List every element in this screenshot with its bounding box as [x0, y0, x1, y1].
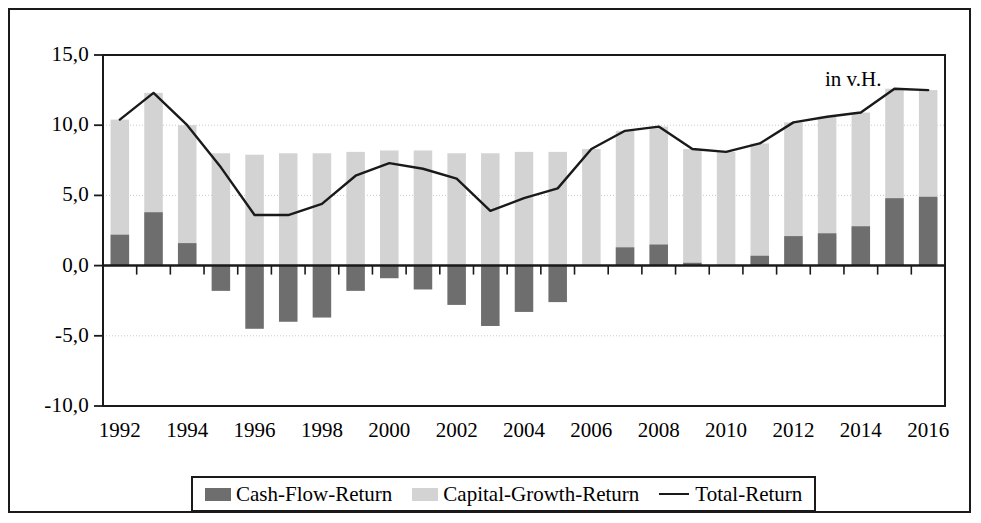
x-axis-tick-label: 1992: [85, 420, 155, 441]
y-axis-tick-label: 0,0: [62, 255, 89, 276]
cash-flow-bar: [548, 266, 567, 303]
capital-growth-bar: [515, 152, 534, 266]
capital-growth-bar: [750, 143, 769, 265]
x-axis-tick-label: 2010: [691, 420, 761, 441]
cash-flow-bar: [616, 247, 635, 265]
cash-flow-bar: [515, 266, 534, 312]
capital-growth-bar: [548, 152, 567, 266]
y-axis-tick-label: 5,0: [62, 184, 89, 205]
capital-growth-bar: [683, 149, 702, 266]
cash-flow-bar: [481, 266, 500, 326]
capital-growth-bar: [313, 153, 332, 265]
capital-growth-bar: [447, 153, 466, 265]
cash-flow-bar: [649, 245, 668, 266]
cash-flow-bar: [279, 266, 298, 322]
legend-swatch-icon: [205, 488, 231, 501]
chart-plot-area: -10,0-5,00,05,010,015,0 1992199419961998…: [10, 10, 973, 515]
x-axis-tick-label: 2016: [893, 420, 963, 441]
legend-item: Cash-Flow-Return: [205, 484, 392, 505]
legend-item: Capital-Growth-Return: [412, 484, 639, 505]
x-axis-tick-label: 2002: [422, 420, 492, 441]
capital-growth-bar: [616, 131, 635, 266]
x-axis-tick-label: 1994: [152, 420, 222, 441]
y-axis-tick-label: -5,0: [55, 325, 89, 346]
cash-flow-bar: [212, 266, 231, 291]
x-axis-tick-label: 2006: [556, 420, 626, 441]
cash-flow-bar: [818, 233, 837, 265]
unit-annotation: in v.H.: [825, 69, 881, 90]
legend-item: Total-Return: [659, 484, 802, 505]
y-axis-tick-label: -10,0: [44, 395, 89, 416]
x-axis-tick-label: 2008: [624, 420, 694, 441]
legend-item-label: Total-Return: [695, 484, 802, 505]
x-axis-tick-label: 2014: [826, 420, 896, 441]
cash-flow-bar: [111, 235, 130, 266]
cash-flow-bar: [380, 266, 399, 279]
capital-growth-bar: [717, 152, 736, 266]
cash-flow-bar: [852, 226, 871, 265]
cash-flow-bar: [178, 243, 197, 265]
cash-flow-bar: [245, 266, 264, 329]
legend-item-label: Cash-Flow-Return: [236, 484, 392, 505]
cash-flow-bar: [919, 197, 938, 266]
x-axis-tick-label: 2000: [354, 420, 424, 441]
cash-flow-bar: [885, 198, 904, 265]
capital-growth-bars: [111, 89, 938, 266]
cash-flow-bar: [346, 266, 365, 291]
legend-swatch-icon: [412, 488, 438, 501]
legend-line-marker-icon: [659, 493, 689, 495]
legend-item-label: Capital-Growth-Return: [443, 484, 639, 505]
cash-flow-bar: [313, 266, 332, 318]
capital-growth-bar: [279, 153, 298, 265]
cash-flow-bar: [750, 256, 769, 266]
x-axis-tick-label: 2012: [758, 420, 828, 441]
capital-growth-bar: [582, 149, 601, 266]
cash-flow-bar: [414, 266, 433, 290]
capital-growth-bar: [346, 152, 365, 266]
figure-frame: -10,0-5,00,05,010,015,0 1992199419961998…: [8, 8, 971, 513]
cash-flow-bar: [144, 212, 163, 265]
y-axis-tick-label: 10,0: [51, 114, 89, 135]
x-axis-tick-label: 2004: [489, 420, 559, 441]
x-axis-tick-label: 1996: [220, 420, 290, 441]
capital-growth-bar: [212, 153, 231, 265]
capital-growth-bar: [245, 155, 264, 266]
x-axis-tick-label: 1998: [287, 420, 357, 441]
cash-flow-bar: [447, 266, 466, 305]
y-axis-tick-label: 15,0: [51, 44, 89, 65]
y-axis-ticks: [94, 55, 103, 406]
capital-growth-bar: [380, 150, 399, 265]
cash-flow-bar: [784, 236, 803, 265]
chart-legend: Cash-Flow-ReturnCapital-Growth-ReturnTot…: [191, 476, 816, 512]
